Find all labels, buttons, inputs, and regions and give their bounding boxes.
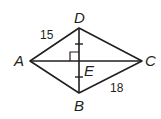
- right-angle-marker: [70, 52, 79, 61]
- kite-diagram: D A C E B 15 18: [0, 0, 161, 119]
- vertex-label-B: B: [74, 97, 84, 114]
- vertex-label-A: A: [13, 52, 24, 69]
- side-length-AD: 15: [40, 28, 54, 42]
- side-length-BC: 18: [110, 81, 124, 95]
- vertex-label-C: C: [145, 52, 156, 69]
- vertex-label-E: E: [84, 62, 95, 79]
- vertex-label-D: D: [74, 9, 85, 26]
